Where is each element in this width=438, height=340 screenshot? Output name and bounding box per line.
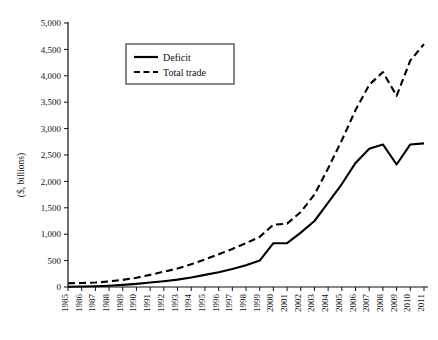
legend-border bbox=[126, 44, 234, 84]
x-tick-label: 1998 bbox=[238, 294, 248, 313]
x-tick-label: 1985 bbox=[60, 294, 70, 313]
x-tick-label: 1988 bbox=[101, 294, 111, 313]
y-tick-label: 3,000 bbox=[41, 124, 62, 134]
x-tick-label: 1992 bbox=[156, 294, 166, 312]
y-tick-label: 2,000 bbox=[41, 177, 62, 187]
series-line-deficit bbox=[68, 143, 424, 286]
x-tick-label: 2006 bbox=[348, 294, 358, 313]
x-tick-label: 2009 bbox=[389, 294, 399, 313]
y-tick-label: 2,500 bbox=[41, 150, 62, 160]
x-tick-label: 1997 bbox=[224, 294, 234, 313]
x-tick-label: 1990 bbox=[128, 294, 138, 313]
x-tick-label: 1989 bbox=[115, 294, 125, 313]
x-tick-label: 2011 bbox=[416, 294, 426, 312]
x-tick-label: 2004 bbox=[320, 294, 330, 313]
x-tick-label: 1987 bbox=[87, 294, 97, 313]
x-tick-label: 2008 bbox=[375, 294, 385, 313]
legend-label-deficit: Deficit bbox=[163, 52, 191, 63]
trade-deficit-line-chart: 05001,0001,5002,0002,5003,0003,5004,0004… bbox=[0, 0, 438, 340]
x-tick-label: 2003 bbox=[306, 294, 316, 313]
y-tick-label: 4,000 bbox=[41, 71, 62, 81]
x-tick-label: 2010 bbox=[402, 294, 412, 313]
x-tick-label: 2005 bbox=[334, 294, 344, 313]
x-tick-label: 1993 bbox=[170, 294, 180, 313]
y-tick-label: 4,500 bbox=[41, 45, 62, 55]
y-axis-ticks: 05001,0001,5002,0002,5003,0003,5004,0004… bbox=[41, 18, 68, 292]
x-tick-label: 1996 bbox=[211, 294, 221, 313]
y-tick-label: 0 bbox=[57, 282, 62, 292]
x-tick-label: 2007 bbox=[361, 294, 371, 313]
y-axis-title: ($, billions) bbox=[16, 153, 27, 197]
x-tick-label: 2002 bbox=[293, 294, 303, 312]
x-tick-label: 1999 bbox=[252, 294, 262, 313]
x-tick-label: 2001 bbox=[279, 294, 289, 312]
chart-legend: Deficit Total trade bbox=[126, 44, 234, 84]
x-tick-label: 2000 bbox=[265, 294, 275, 313]
y-tick-label: 3,500 bbox=[41, 97, 62, 107]
x-tick-label: 1994 bbox=[183, 294, 193, 313]
y-tick-label: 5,000 bbox=[41, 18, 62, 28]
series-line-total-trade bbox=[68, 44, 424, 283]
y-tick-label: 500 bbox=[48, 256, 62, 266]
x-tick-label: 1995 bbox=[197, 294, 207, 313]
data-series-group bbox=[68, 44, 424, 287]
legend-label-total-trade: Total trade bbox=[163, 67, 206, 78]
x-axis-ticks: 1985198619871988198919901991199219931994… bbox=[60, 287, 426, 312]
y-tick-label: 1,000 bbox=[41, 229, 62, 239]
chart-figure: 05001,0001,5002,0002,5003,0003,5004,0004… bbox=[0, 0, 438, 340]
y-tick-label: 1,500 bbox=[41, 203, 62, 213]
x-tick-label: 1991 bbox=[142, 294, 152, 312]
x-tick-label: 1986 bbox=[74, 294, 84, 313]
